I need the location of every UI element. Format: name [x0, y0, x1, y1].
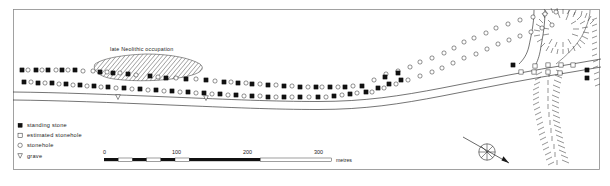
south-row-stonehole-marker	[290, 95, 294, 99]
south-row-standing-stone-marker	[234, 93, 238, 97]
south-row-stonehole-marker	[355, 91, 359, 95]
south-row-standing-stone-marker	[266, 95, 270, 99]
roadside-marker-marker	[546, 63, 550, 67]
north-row-standing-stone-marker	[73, 68, 77, 72]
south-row-standing-stone-marker	[106, 85, 110, 89]
north-row-stonehole-marker	[258, 82, 262, 86]
north-row-stonehole-marker	[81, 69, 85, 73]
ne-fan-upper-stonehole-marker	[430, 56, 434, 60]
south-row-standing-stone-marker	[22, 80, 26, 84]
ne-fan-upper-stonehole-marker	[494, 26, 498, 30]
ne-fan-lower-stonehole-marker	[430, 70, 434, 74]
north-row-standing-stone-marker	[20, 68, 24, 72]
stone-series-ne-fan-lower-stonehole	[370, 23, 554, 94]
south-row-standing-stone-marker	[348, 92, 352, 96]
north-arrow	[463, 137, 509, 163]
stone-symbols-layer	[20, 10, 589, 101]
scalebar-seg	[175, 158, 189, 161]
south-row-stonehole-marker	[226, 93, 230, 97]
north-row-stonehole-marker	[229, 80, 233, 84]
scarp-east-hachure	[533, 70, 569, 165]
south-row-standing-stone-marker	[78, 83, 82, 87]
ne-fan-lower-stonehole-marker	[451, 61, 455, 65]
south-row-standing-stone-marker	[170, 89, 174, 93]
north-row-standing-stone-marker	[236, 81, 240, 85]
ne-fan-upper-stonehole-marker	[543, 12, 547, 16]
south-row-stonehole-marker	[162, 89, 166, 93]
road-lane-vertical-east	[536, 10, 545, 64]
south-row-stonehole-marker	[43, 81, 47, 85]
ne-fan-lower-stonehole-marker	[418, 74, 422, 78]
ne-fan-lower-stonehole-marker	[529, 30, 533, 34]
stonehole-icon	[18, 143, 22, 147]
ne-fan-lower-stonehole-marker	[485, 47, 489, 51]
north-row-stonehole-marker	[40, 68, 44, 72]
stone-series-south-row-standing-stone	[22, 80, 352, 99]
ne-standing-stone-marker	[399, 78, 403, 82]
north-row-stonehole-marker	[91, 69, 95, 73]
ne-fan-lower-stonehole-marker	[496, 42, 500, 46]
north-row-stonehole-marker	[274, 83, 278, 87]
legend-label-estimated-stonehole: estimated stonehole	[27, 132, 82, 138]
south-row-standing-stone-marker	[316, 95, 320, 99]
roadside-standing-stone-marker	[585, 76, 589, 80]
ne-fan-lower-stonehole-marker	[540, 26, 544, 30]
north-row-standing-stone-marker	[343, 85, 347, 89]
ne-fan-upper-stonehole-marker	[442, 51, 446, 55]
north-row-stonehole-marker	[26, 68, 30, 72]
north-row-stonehole-marker	[290, 84, 294, 88]
south-row-stonehole-marker	[340, 93, 344, 97]
scalebar-tick-100: 100	[172, 149, 181, 155]
south-row-stonehole-marker	[57, 82, 61, 86]
ne-fan-lower-stonehole-marker	[474, 52, 478, 56]
scalebar-seg	[118, 158, 132, 161]
grave-icon	[18, 154, 23, 159]
north-row-standing-stone-marker	[204, 78, 208, 82]
south-row-standing-stone-marker	[298, 95, 302, 99]
standing-stone-icon	[18, 123, 22, 127]
south-row-stonehole-marker	[146, 88, 150, 92]
north-row-standing-stone-marker	[250, 82, 254, 86]
legend-label-grave: grave	[27, 153, 42, 159]
south-row-stonehole-marker	[130, 87, 134, 91]
road-spur	[556, 10, 590, 64]
roadside-standing-stone-marker	[511, 63, 515, 67]
ne-fan-upper-stonehole-marker	[518, 18, 522, 22]
north-row-standing-stone-marker	[282, 84, 286, 88]
earthwork-hachures	[533, 8, 600, 165]
grave-marker	[116, 95, 121, 100]
ne-fan-lower-stonehole-marker	[440, 66, 444, 70]
ne-fan-upper-stonehole-marker	[554, 10, 558, 14]
south-row-standing-stone-marker	[92, 84, 96, 88]
ne-fan-upper-stonehole-marker	[531, 15, 535, 19]
legend-label-standing-stone: standing stone	[27, 122, 67, 128]
north-row-stonehole-marker	[351, 84, 355, 88]
south-row-standing-stone-marker	[202, 91, 206, 95]
south-row-standing-stone-marker	[282, 95, 286, 99]
estimated-stonehole-icon	[18, 133, 22, 137]
south-row-stonehole-marker	[258, 94, 262, 98]
scalebar-tick-200: 200	[243, 149, 252, 155]
road-network	[13, 10, 601, 110]
ne-fan-lower-stonehole-marker	[394, 82, 398, 86]
scalebar-tick-300: 300	[314, 149, 323, 155]
north-row-stonehole-marker	[134, 73, 138, 77]
ne-fan-upper-stonehole-marker	[418, 60, 422, 64]
scarp-far-east-hachure	[592, 18, 600, 86]
ne-fan-upper-stonehole-marker	[462, 40, 466, 44]
scalebar-seg-200-300	[260, 158, 331, 161]
ne-standing-stone-marker	[387, 82, 391, 86]
ne-fan-upper-stonehole-marker	[506, 22, 510, 26]
south-row-stonehole-marker	[194, 91, 198, 95]
north-row-stonehole-marker	[54, 68, 58, 72]
north-row-stonehole-marker	[156, 75, 160, 79]
ne-fan-lower-stonehole-marker	[518, 34, 522, 38]
south-row-standing-stone-marker	[250, 94, 254, 98]
ne-fan-upper-stonehole-marker	[484, 31, 488, 35]
north-row-standing-stone-marker	[46, 68, 50, 72]
north-row-stonehole-marker	[174, 76, 178, 80]
roadside-marker-marker	[532, 70, 536, 74]
north-row-stonehole-marker	[105, 70, 109, 74]
scalebar-tick-0: 0	[103, 149, 106, 155]
south-row-stonehole-marker	[71, 83, 75, 87]
